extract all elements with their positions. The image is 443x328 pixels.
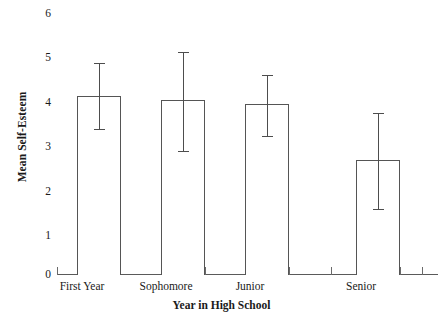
- y-tick-label-0: 0: [29, 269, 51, 281]
- x-axis-tick: [205, 267, 206, 275]
- y-tick-label-6: 6: [29, 8, 51, 20]
- x-axis-title: Year in High School: [0, 299, 443, 311]
- x-tick-label-first-year: First Year: [47, 281, 117, 293]
- errorbar-cap-top: [178, 52, 189, 53]
- errorbar-junior: [267, 75, 268, 137]
- errorbar-cap-top: [373, 113, 384, 114]
- y-tick-label-4: 4: [29, 97, 51, 109]
- x-tick-label-senior: Senior: [326, 281, 396, 293]
- errorbar-cap-bottom: [178, 151, 189, 152]
- errorbar-sophomore: [183, 52, 184, 152]
- y-tick-label-2: 2: [29, 186, 51, 198]
- errorbar-first-year: [99, 63, 100, 130]
- x-axis-tick: [422, 267, 423, 275]
- y-axis-title-text: Mean Self-Esteem: [16, 92, 28, 183]
- errorbar-cap-bottom: [94, 129, 105, 130]
- y-tick-label-5: 5: [29, 52, 51, 64]
- errorbar-cap-top: [262, 75, 273, 76]
- errorbar-cap-bottom: [262, 136, 273, 137]
- errorbar-cap-top: [94, 63, 105, 64]
- x-axis-tick: [400, 267, 401, 275]
- y-tick-label-1: 1: [29, 230, 51, 242]
- y-tick-label-3: 3: [29, 141, 51, 153]
- x-axis-tick: [289, 267, 290, 275]
- x-axis-tick: [57, 267, 58, 275]
- errorbar-cap-bottom: [373, 209, 384, 210]
- x-tick-label-sophomore: Sophomore: [131, 281, 201, 293]
- errorbar-senior: [378, 113, 379, 210]
- plot-area: [57, 6, 438, 275]
- bar-chart: Mean Self-Esteem 6 5 4 3 2 1 0: [0, 0, 443, 328]
- x-tick-label-junior: Junior: [215, 281, 285, 293]
- x-axis-tick: [331, 267, 332, 275]
